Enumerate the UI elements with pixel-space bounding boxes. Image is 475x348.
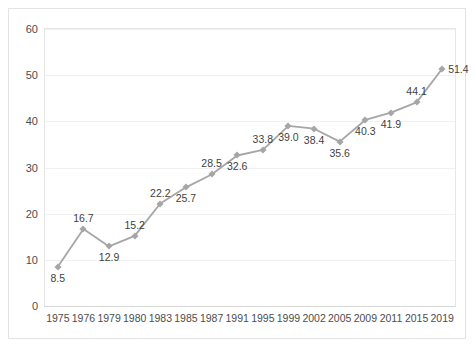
series-line <box>45 29 455 306</box>
y-axis-tick-label: 0 <box>32 301 38 312</box>
data-value-label: 8.5 <box>51 273 66 284</box>
x-axis-tick-label: 1991 <box>226 313 249 324</box>
data-value-label: 22.2 <box>150 187 170 198</box>
x-axis-tick-label: 2009 <box>354 313 377 324</box>
data-value-label: 51.4 <box>448 63 468 74</box>
x-axis-tick-label: 1979 <box>97 313 120 324</box>
x-axis-tick-label: 2005 <box>328 313 351 324</box>
data-value-label: 39.0 <box>278 132 298 143</box>
x-axis-tick-label: 1995 <box>251 313 274 324</box>
data-value-label: 40.3 <box>355 126 375 137</box>
data-value-label: 38.4 <box>304 135 324 146</box>
data-value-label: 33.8 <box>253 133 273 144</box>
x-axis-tick-label: 2019 <box>431 313 454 324</box>
y-axis-tick-label: 60 <box>26 24 38 35</box>
y-axis-tick-label: 20 <box>26 208 38 219</box>
chart-figure: 0102030405060 19751976197919801983198519… <box>8 8 466 339</box>
data-value-label: 28.5 <box>201 158 221 169</box>
y-axis-tick-label: 30 <box>26 162 38 173</box>
data-value-label: 41.9 <box>381 119 401 130</box>
data-value-label: 35.6 <box>329 148 349 159</box>
plot-area: 0102030405060 19751976197919801983198519… <box>44 28 456 307</box>
x-axis-tick-label: 1975 <box>46 313 69 324</box>
x-axis-tick-label: 1983 <box>149 313 172 324</box>
x-axis-tick-label: 1985 <box>174 313 197 324</box>
x-axis-tick-label: 1980 <box>123 313 146 324</box>
y-axis-tick-label: 40 <box>26 116 38 127</box>
data-value-label: 12.9 <box>99 252 119 263</box>
data-value-label: 16.7 <box>73 212 93 223</box>
gridline <box>45 306 455 307</box>
data-value-label: 32.6 <box>227 161 247 172</box>
x-axis-tick-label: 1976 <box>72 313 95 324</box>
x-axis-tick-label: 1987 <box>200 313 223 324</box>
x-axis-tick-label: 2015 <box>405 313 428 324</box>
x-axis-tick-label: 1999 <box>277 313 300 324</box>
data-value-label: 15.2 <box>124 219 144 230</box>
x-axis-tick-label: 2002 <box>302 313 325 324</box>
y-axis-tick-label: 10 <box>26 254 38 265</box>
x-axis-tick-label: 2011 <box>380 313 403 324</box>
y-axis-tick-label: 50 <box>26 70 38 81</box>
data-value-label: 44.1 <box>406 86 426 97</box>
data-value-label: 25.7 <box>176 193 196 204</box>
